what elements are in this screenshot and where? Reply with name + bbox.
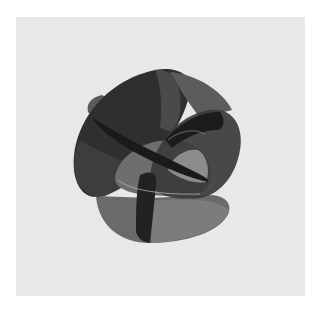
bottom-lobe-light [149,199,229,243]
surface-render [0,0,320,310]
